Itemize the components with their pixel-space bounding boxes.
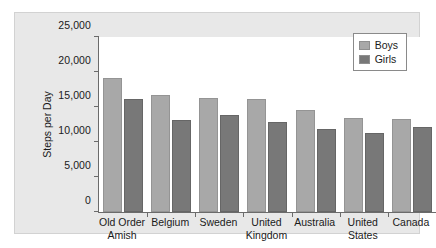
y-axis-tick-label: 25,000 bbox=[58, 19, 91, 31]
legend-label: Girls bbox=[375, 53, 397, 65]
bar-boys[interactable] bbox=[392, 119, 411, 212]
x-axis-tick-label: Belgium bbox=[146, 216, 194, 241]
x-axis-label-line: United bbox=[339, 216, 387, 229]
bar-girls[interactable] bbox=[317, 129, 336, 212]
bar-girls[interactable] bbox=[413, 127, 432, 212]
x-axis-label-line: Sweden bbox=[194, 216, 242, 229]
y-axis-tick-label: 20,000 bbox=[58, 54, 91, 66]
x-axis-label-line: Canada bbox=[387, 216, 435, 229]
bar-group bbox=[147, 37, 195, 212]
x-axis-label-line: United bbox=[242, 216, 290, 229]
x-axis-label-line: Australia bbox=[291, 216, 339, 229]
chart-legend: BoysGirls bbox=[353, 33, 407, 71]
legend-swatch-icon bbox=[359, 55, 370, 64]
bar-group bbox=[195, 37, 243, 212]
bar-girls[interactable] bbox=[172, 120, 191, 212]
bar-girls[interactable] bbox=[124, 99, 143, 212]
legend-label: Boys bbox=[375, 39, 398, 51]
bar-boys[interactable] bbox=[199, 98, 218, 212]
chart-panel: Steps per Day 05,00010,00015,00020,00025… bbox=[14, 12, 420, 234]
y-axis-tick-label: 10,000 bbox=[58, 124, 91, 136]
bar-boys[interactable] bbox=[103, 78, 122, 212]
bar-girls[interactable] bbox=[268, 122, 287, 212]
legend-item-girls[interactable]: Girls bbox=[359, 52, 398, 66]
x-axis-label-line: States bbox=[339, 229, 387, 242]
bar-boys[interactable] bbox=[247, 99, 266, 212]
y-axis-tick-label: 5,000 bbox=[64, 159, 91, 171]
x-axis-label-line: Amish bbox=[98, 229, 146, 242]
bar-boys[interactable] bbox=[151, 95, 170, 212]
bar-girls[interactable] bbox=[365, 133, 384, 212]
legend-item-boys[interactable]: Boys bbox=[359, 38, 398, 52]
x-axis-tick-label: UnitedKingdom bbox=[242, 216, 290, 241]
x-axis-tick-label: Sweden bbox=[194, 216, 242, 241]
y-axis-tick-label: 15,000 bbox=[58, 89, 91, 101]
bar-girls[interactable] bbox=[220, 115, 239, 212]
x-axis-label-line: Kingdom bbox=[242, 229, 290, 242]
y-axis-title: Steps per Day bbox=[41, 37, 55, 212]
x-axis-tick-label: UnitedStates bbox=[339, 216, 387, 241]
x-axis-label-line: Old Order bbox=[98, 216, 146, 229]
x-axis-tick-label: Australia bbox=[291, 216, 339, 241]
bar-group bbox=[99, 37, 147, 212]
bar-group bbox=[292, 37, 340, 212]
legend-swatch-icon bbox=[359, 41, 370, 50]
bar-boys[interactable] bbox=[296, 110, 315, 212]
x-axis-tick-label: Canada bbox=[387, 216, 435, 241]
y-axis-tick-label: 0 bbox=[85, 194, 91, 206]
x-axis-labels: Old OrderAmishBelgiumSwedenUnitedKingdom… bbox=[98, 216, 435, 241]
bar-group bbox=[243, 37, 291, 212]
x-axis-label-line: Belgium bbox=[146, 216, 194, 229]
bar-boys[interactable] bbox=[344, 118, 363, 213]
x-axis-tick-label: Old OrderAmish bbox=[98, 216, 146, 241]
